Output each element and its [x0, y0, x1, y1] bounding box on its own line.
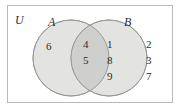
region-intersection-elements: 4 5: [83, 39, 89, 66]
region-outside-elements: 2 3 7: [146, 39, 152, 82]
element-value: 1: [107, 39, 113, 50]
element-value: 5: [83, 55, 89, 66]
element-value: 7: [146, 71, 152, 82]
venn-circles-graphic: [0, 0, 181, 110]
element-value: 4: [83, 39, 89, 50]
universe-set-label: U: [15, 14, 24, 26]
set-b-label: B: [124, 16, 131, 28]
set-a-label: A: [48, 16, 55, 28]
element-value: 2: [146, 39, 152, 50]
region-b-only-elements: 1 8 9: [107, 39, 113, 82]
element-value: 9: [107, 71, 113, 82]
region-a-only-elements: 6: [46, 41, 52, 52]
venn-diagram-figure: U A B 6 4 5 1 8 9 2 3 7: [0, 0, 181, 110]
element-value: 3: [146, 55, 152, 66]
element-value: 8: [107, 55, 113, 66]
element-value: 6: [46, 41, 52, 52]
